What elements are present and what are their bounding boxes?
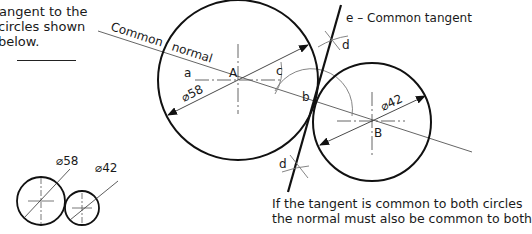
label-A: A xyxy=(229,66,238,80)
label-common-tangent: e – Common tangent xyxy=(346,11,472,25)
diameter-a-dimension xyxy=(238,45,308,80)
label-diameter-58: ⌀58 xyxy=(179,82,205,105)
label-c: c xyxy=(276,64,283,78)
caption-line-2: the normal must also be common to both xyxy=(272,211,532,226)
diameter-b-dimension-2 xyxy=(320,121,372,145)
small-label-42: ⌀42 xyxy=(95,161,118,175)
common-normal-line xyxy=(98,31,472,152)
label-diameter-42: ⌀42 xyxy=(378,92,404,114)
small-label-58: ⌀58 xyxy=(56,154,79,168)
label-b: b xyxy=(302,90,310,104)
label-d-bottom: d xyxy=(279,157,287,171)
label-B: B xyxy=(374,126,382,140)
label-common-normal-1: Common xyxy=(109,20,165,50)
caption-line-1: If the tangent is common to both circles xyxy=(272,196,523,211)
label-d-top: d xyxy=(342,38,350,52)
diameter-a-dimension-2 xyxy=(168,80,238,115)
label-a: a xyxy=(184,66,191,80)
small-diameter-42-leader xyxy=(70,181,118,220)
common-tangent-line xyxy=(288,5,341,192)
